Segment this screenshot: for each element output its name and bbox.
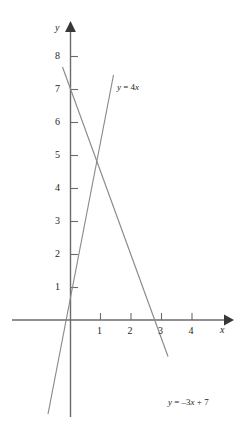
eq2-tail: + 7	[195, 397, 209, 407]
eq1-x: x	[135, 82, 139, 92]
eq1-operator: = 4	[121, 82, 135, 92]
line-y-equals-minus-3x-plus-7	[63, 67, 169, 357]
y-tick-label-8: 8	[55, 51, 60, 61]
x-tick-label-1: 1	[97, 326, 102, 336]
x-tick-label-2: 2	[128, 326, 133, 336]
y-axis-arrow	[65, 21, 76, 32]
line-label-y-equals-4x: y = 4x	[117, 83, 139, 92]
y-tick-label-3: 3	[55, 216, 60, 226]
y-tick-label-6: 6	[55, 117, 60, 127]
line-label-y-equals-minus-3x-plus-7: y = –3x + 7	[168, 398, 209, 407]
x-axis-arrow	[224, 315, 234, 326]
graph-figure: y x 8 7 6 5 4 3 2 1 1 2 3 4 y = 4x y = –…	[0, 0, 237, 435]
y-tick-label-7: 7	[55, 84, 60, 94]
y-tick-label-2: 2	[55, 249, 60, 259]
x-tick-label-4: 4	[189, 326, 194, 336]
y-tick-label-4: 4	[55, 183, 60, 193]
y-axis-label: y	[55, 23, 59, 33]
x-axis	[12, 313, 234, 325]
eq2-operator: = –3	[172, 397, 191, 407]
coordinate-plane-svg	[0, 0, 237, 435]
x-tick-label-3: 3	[158, 326, 163, 336]
y-tick-label-1: 1	[55, 282, 60, 292]
x-axis-label: x	[220, 325, 224, 335]
x-axis-ticks	[101, 313, 193, 320]
y-tick-label-5: 5	[55, 150, 60, 160]
